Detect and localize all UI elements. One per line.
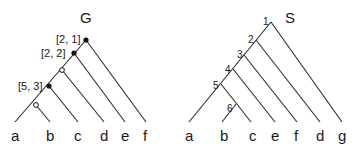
- gene-tree: G [2, 1] [2, 2] [5, 3] a b c d e f: [11, 9, 148, 144]
- leaf-label: f: [294, 127, 299, 144]
- leaf-label: a: [11, 127, 20, 144]
- edge-e: [233, 69, 275, 122]
- species-tree: S 1 2 3 4 5 6 a b c e f d g: [185, 9, 346, 144]
- node-number: 3: [237, 49, 243, 60]
- node-label: [5, 3]: [18, 80, 42, 92]
- leaf-label: a: [185, 127, 194, 144]
- edge-c: [49, 86, 78, 122]
- edge-f: [244, 55, 297, 122]
- speciation-node-marker: [60, 68, 65, 73]
- edge-bc-clade: [221, 84, 251, 122]
- edge-d: [62, 70, 104, 122]
- leaf-label: c: [249, 127, 257, 144]
- leaf-label: e: [121, 127, 129, 144]
- node-number: 2: [248, 34, 254, 45]
- gene-tree-title: G: [80, 9, 92, 26]
- node-number: 5: [213, 80, 219, 91]
- leaf-label: d: [100, 127, 108, 144]
- node-number: 1: [263, 16, 269, 27]
- leaf-label: b: [220, 127, 228, 144]
- edge-e: [74, 53, 125, 122]
- duplication-node-marker: [83, 37, 88, 42]
- speciation-node-marker: [34, 103, 39, 108]
- edge-b: [36, 105, 50, 122]
- node-label: [2, 1]: [56, 33, 80, 45]
- leaf-label: d: [316, 127, 324, 144]
- leaf-label: e: [271, 127, 279, 144]
- leaf-label: c: [74, 127, 82, 144]
- duplication-node-marker: [71, 50, 76, 55]
- leaf-label: g: [338, 127, 346, 144]
- leaf-label: f: [143, 127, 148, 144]
- species-tree-title: S: [285, 9, 295, 26]
- duplication-node-marker: [46, 83, 51, 88]
- leaf-label: b: [46, 127, 54, 144]
- node-label: [2, 2]: [41, 47, 65, 59]
- diagram-canvas: G [2, 1] [2, 2] [5, 3] a b c d e f S 1 2…: [0, 0, 356, 154]
- node-number: 4: [225, 64, 231, 75]
- node-number: 6: [227, 103, 233, 114]
